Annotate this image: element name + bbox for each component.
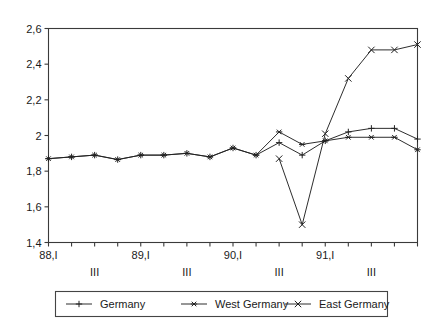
chart-svg: 2,62,42,221,81,61,4 88,IIII89,IIII90,III… bbox=[0, 0, 442, 334]
x-tick-label-year: 91,I bbox=[316, 249, 334, 261]
legend-label: East Germany bbox=[319, 298, 390, 310]
legend-label: West Germany bbox=[215, 298, 289, 310]
chart-figure: 2,62,42,221,81,61,4 88,IIII89,IIII90,III… bbox=[0, 0, 442, 334]
y-tick-label: 1,6 bbox=[26, 201, 41, 213]
x-tick-label-year: 90,I bbox=[224, 249, 242, 261]
x-tick-label-year: 89,I bbox=[132, 249, 150, 261]
x-tick-label-quarter: III bbox=[367, 266, 376, 278]
y-tick-label: 2,4 bbox=[26, 58, 41, 70]
x-tick-label-quarter: III bbox=[90, 266, 99, 278]
x-tick-label-year: 88,I bbox=[39, 249, 57, 261]
y-tick-label: 2,6 bbox=[26, 23, 41, 35]
chart-legend: GermanyWest GermanyEast Germany bbox=[56, 292, 390, 317]
y-tick-label: 2 bbox=[35, 130, 41, 142]
legend-label: Germany bbox=[100, 298, 146, 310]
x-tick-label-quarter: III bbox=[182, 266, 191, 278]
y-tick-label: 2,2 bbox=[26, 94, 41, 106]
y-tick-label: 1,8 bbox=[26, 165, 41, 177]
y-tick-label: 1,4 bbox=[26, 237, 41, 249]
x-tick-label-quarter: III bbox=[275, 266, 284, 278]
